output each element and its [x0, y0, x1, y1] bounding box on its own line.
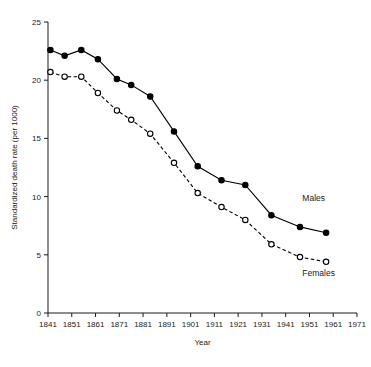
series-annotations: MalesFemales: [302, 193, 335, 277]
series-females: [48, 69, 329, 264]
data-point-marker: [195, 164, 200, 169]
line-chart: 0510152025 18411851186118711881189119011…: [0, 0, 371, 367]
series-line: [50, 50, 326, 233]
data-point-marker: [219, 178, 224, 183]
x-tick-label: 1951: [301, 320, 319, 329]
data-point-marker: [171, 160, 176, 165]
data-point-marker: [48, 69, 53, 74]
data-point-marker: [79, 47, 84, 52]
data-point-marker: [114, 108, 119, 113]
x-tick-label: 1941: [277, 320, 295, 329]
x-tick-label: 1891: [158, 320, 176, 329]
data-point-marker: [62, 53, 67, 58]
data-point-marker: [48, 47, 53, 52]
x-axis-ticks: 1841185118611871188118911901191119211931…: [39, 313, 366, 329]
data-point-marker: [243, 217, 248, 222]
y-tick-label: 5: [37, 251, 42, 260]
data-point-marker: [148, 131, 153, 136]
y-tick-label: 25: [32, 18, 41, 27]
data-point-marker: [79, 74, 84, 79]
x-tick-label: 1841: [39, 320, 57, 329]
y-axis: 0510152025: [32, 18, 48, 318]
data-point-marker: [114, 76, 119, 81]
x-tick-label: 1901: [182, 320, 200, 329]
data-point-marker: [148, 94, 153, 99]
data-point-marker: [269, 242, 274, 247]
y-tick-label: 15: [32, 134, 41, 143]
data-point-marker: [297, 224, 302, 229]
y-tick-label: 10: [32, 193, 41, 202]
x-axis-title: Year: [194, 338, 211, 347]
x-tick-label: 1861: [87, 320, 105, 329]
data-point-marker: [323, 230, 328, 235]
data-point-marker: [129, 117, 134, 122]
data-point-marker: [195, 190, 200, 195]
data-series-layer: [48, 47, 329, 264]
data-point-marker: [129, 82, 134, 87]
data-point-marker: [297, 254, 302, 259]
x-tick-label: 1971: [348, 320, 366, 329]
y-tick-label: 0: [37, 309, 42, 318]
x-tick-label: 1881: [134, 320, 152, 329]
series-males: [48, 47, 329, 235]
y-axis-title: Standardized death rate (per 1000): [10, 105, 19, 230]
chart-container: 0510152025 18411851186118711881189119011…: [0, 0, 371, 367]
data-point-marker: [62, 74, 67, 79]
data-point-marker: [323, 259, 328, 264]
series-annotation-females: Females: [302, 268, 335, 278]
series-line: [50, 72, 326, 262]
series-annotation-males: Males: [302, 193, 325, 203]
x-tick-label: 1921: [229, 320, 247, 329]
data-point-marker: [95, 90, 100, 95]
data-point-marker: [219, 204, 224, 209]
x-tick-label: 1931: [253, 320, 271, 329]
data-point-marker: [171, 129, 176, 134]
x-tick-label: 1911: [206, 320, 224, 329]
data-point-marker: [95, 57, 100, 62]
y-axis-ticks: 0510152025: [32, 18, 48, 318]
x-axis: 1841185118611871188118911901191119211931…: [39, 313, 366, 329]
y-tick-label: 20: [32, 76, 41, 85]
x-tick-label: 1851: [63, 320, 81, 329]
x-tick-label: 1961: [324, 320, 342, 329]
data-point-marker: [243, 182, 248, 187]
x-tick-label: 1871: [110, 320, 128, 329]
data-point-marker: [269, 213, 274, 218]
